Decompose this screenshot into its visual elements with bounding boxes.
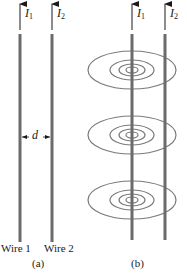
panel-a	[19, 4, 54, 242]
current-subscript: 1	[141, 12, 145, 21]
wire-2-label: Wire 2	[44, 242, 74, 254]
current-subscript: 1	[29, 12, 33, 21]
panel-a-caption: (a)	[32, 257, 44, 269]
wire-1-label: Wire 1	[1, 242, 31, 254]
wire-2-b	[164, 34, 167, 240]
separation-label: d	[32, 128, 38, 143]
wire-1-a	[19, 34, 22, 242]
current-label-i1-b: I1	[137, 6, 145, 21]
current-label-i2-a: I2	[57, 6, 65, 21]
current-label-i1-a: I1	[25, 6, 33, 21]
wire-2-a	[51, 34, 54, 242]
current-subscript: 2	[61, 12, 65, 21]
wire-1-b	[131, 34, 134, 240]
current-subscript: 2	[174, 12, 178, 21]
panel-b	[88, 4, 176, 240]
current-label-i2-b: I2	[170, 6, 178, 21]
panel-b-caption: (b)	[131, 257, 144, 269]
diagram-canvas	[0, 0, 187, 275]
